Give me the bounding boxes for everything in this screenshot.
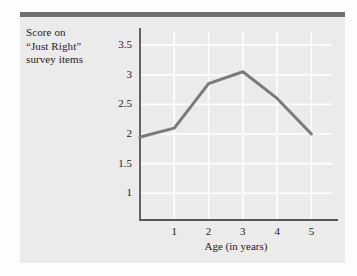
y-tick-label: 3: [86, 68, 132, 80]
x-tick-label: 1: [159, 225, 189, 237]
y-tick-label: 1: [86, 186, 132, 198]
y-tick-label: 2: [86, 127, 132, 139]
y-tick-label: 2.5: [86, 97, 132, 109]
axis-lines: [139, 28, 338, 220]
x-tick-label: 3: [228, 225, 258, 237]
x-axis-label: Age (in years): [100, 240, 357, 252]
x-tick-label: 4: [262, 225, 292, 237]
x-tick-label: 5: [296, 225, 326, 237]
y-tick-label: 1.5: [86, 157, 132, 169]
plot-area: 11.522.533.5 12345 Age (in years): [20, 12, 345, 263]
y-tick-label: 3.5: [86, 38, 132, 50]
x-tick-label: 2: [194, 225, 224, 237]
figure-panel: Score on “Just Right” survey items 11.52…: [20, 12, 345, 263]
